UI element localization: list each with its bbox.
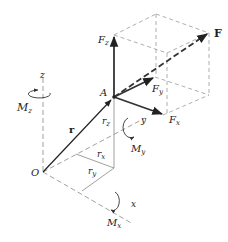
label-fy: Fy xyxy=(151,83,164,96)
label-r: r xyxy=(69,124,75,135)
force-y-vector xyxy=(114,78,153,97)
diagram-canvas: z Mz r O A Fz F Fy Fx rz rx ry y My x Mx xyxy=(0,0,228,242)
label-y-axis: y xyxy=(140,115,147,125)
label-fz: Fz xyxy=(97,34,109,47)
force-x-vector xyxy=(114,97,162,114)
label-ry: ry xyxy=(88,166,97,178)
label-x-axis: x xyxy=(131,199,136,209)
moment-diagram: z Mz r O A Fz F Fy Fx rz rx ry y My x Mx xyxy=(0,0,228,242)
point-a xyxy=(112,95,116,99)
label-z-axis: z xyxy=(39,70,45,80)
label-a: A xyxy=(99,87,107,98)
label-mx: Mx xyxy=(106,217,121,230)
position-vector xyxy=(43,100,111,172)
label-my: My xyxy=(130,143,146,156)
moment-z-icon xyxy=(28,90,50,98)
moment-x-icon xyxy=(111,192,119,210)
label-f: F xyxy=(214,27,222,40)
label-fx: Fx xyxy=(168,114,180,127)
label-o: O xyxy=(31,167,39,178)
moment-y-icon xyxy=(123,118,134,138)
label-rx: rx xyxy=(97,149,105,161)
label-rz: rz xyxy=(102,116,110,128)
y-axis xyxy=(43,118,145,172)
x-axis xyxy=(43,172,133,224)
label-mz: Mz xyxy=(16,101,32,115)
